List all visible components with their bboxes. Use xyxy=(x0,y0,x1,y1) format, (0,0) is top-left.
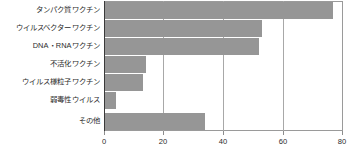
tick-mark xyxy=(223,131,224,135)
tick-mark xyxy=(283,131,284,135)
x-tick-label: 60 xyxy=(279,137,287,146)
bar-row xyxy=(104,92,116,109)
bar-protein-vaccine xyxy=(104,2,333,19)
tick-mark xyxy=(163,131,164,135)
x-tick-label: 40 xyxy=(219,137,227,146)
x-tick-label: 20 xyxy=(159,137,167,146)
bar-other xyxy=(104,113,205,130)
category-axis: タンパク質ワクチン ウイルスベクターワクチン DNA・RNAワクチン 不活化ワク… xyxy=(0,0,103,131)
bar-row xyxy=(104,20,262,37)
bar-row xyxy=(104,74,143,91)
category-label: 弱毒性ウイルス xyxy=(50,91,100,108)
bar-row xyxy=(104,56,146,73)
bar-row xyxy=(104,113,205,130)
x-axis: 0 20 40 60 80 xyxy=(104,131,343,151)
x-tick-label: 80 xyxy=(338,137,346,146)
gridline-60 xyxy=(283,1,284,131)
category-label: タンパク質ワクチン xyxy=(36,1,100,18)
bar-chart: タンパク質ワクチン ウイルスベクターワクチン DNA・RNAワクチン 不活化ワク… xyxy=(0,0,354,151)
bar-inactivated-vaccine xyxy=(104,56,146,73)
bar-row xyxy=(104,38,259,55)
bar-vlp-vaccine xyxy=(104,74,143,91)
plot-area xyxy=(104,1,343,131)
bar-row xyxy=(104,2,333,19)
category-label: 不活化ワクチン xyxy=(50,55,100,72)
x-tick-label: 0 xyxy=(102,137,106,146)
tick-mark xyxy=(342,131,343,135)
category-label: DNA・RNAワクチン xyxy=(33,37,100,54)
category-label: ウイルスベクターワクチン xyxy=(16,19,100,36)
category-label: ウイルス様粒子ワクチン xyxy=(22,73,100,90)
category-label: その他 xyxy=(79,112,100,129)
y-axis-line xyxy=(104,1,105,131)
bar-attenuated-virus xyxy=(104,92,116,109)
bar-dna-rna-vaccine xyxy=(104,38,259,55)
bar-viral-vector-vaccine xyxy=(104,20,262,37)
tick-mark xyxy=(104,131,105,135)
